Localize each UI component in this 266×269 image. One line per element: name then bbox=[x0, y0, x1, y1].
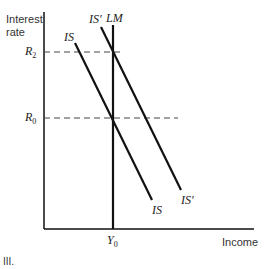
x-axis-label: Income bbox=[222, 236, 258, 248]
y-axis-label-line1: Interest bbox=[6, 13, 43, 25]
diagram-canvas bbox=[0, 0, 266, 269]
label-is-prime-bottom: IS' bbox=[181, 193, 194, 208]
label-is-top: IS bbox=[64, 30, 74, 45]
tick-r0-sub: 0 bbox=[32, 117, 36, 126]
figure-caption: III. bbox=[3, 256, 14, 268]
tick-r0: R0 bbox=[25, 110, 36, 126]
is-lm-diagram: Interest rate R2 R0 IS' LM IS IS IS' Y0 … bbox=[0, 0, 266, 269]
tick-r2-sub: 2 bbox=[32, 51, 36, 60]
y-axis-label-line2: rate bbox=[6, 26, 25, 38]
tick-y0-name: Y bbox=[107, 233, 114, 247]
tick-y0: Y0 bbox=[107, 233, 118, 249]
tick-r2: R2 bbox=[25, 44, 36, 60]
label-is-prime-top: IS' bbox=[89, 12, 102, 27]
tick-y0-sub: 0 bbox=[114, 240, 118, 249]
label-is-bottom: IS bbox=[152, 203, 162, 218]
label-lm: LM bbox=[106, 11, 123, 26]
